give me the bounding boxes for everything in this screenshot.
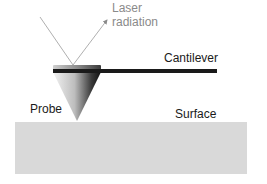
- laser-label-line2: radiation: [112, 15, 158, 29]
- surface-label: Surface: [175, 107, 216, 121]
- laser-label-line1: Laser: [112, 1, 158, 15]
- cantilever-beam: [53, 69, 217, 73]
- laser-label: Laser radiation: [112, 1, 158, 29]
- surface-block: [15, 122, 247, 174]
- laser-incident-beam: [40, 17, 73, 65]
- cantilever-label: Cantilever: [164, 51, 218, 65]
- probe-label: Probe: [30, 102, 62, 116]
- laser-reflected-beam: [73, 20, 107, 65]
